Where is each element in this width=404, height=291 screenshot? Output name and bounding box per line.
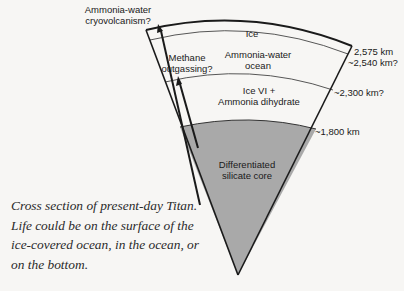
cryovolcanism-label-line1: Ammonia-water	[85, 4, 152, 15]
layer-label-ocean-line1: Ammonia-water	[225, 49, 292, 60]
cryovolcanism-label-line2: cryovolcanism?	[85, 15, 150, 26]
layer-label-core-line1: Differentiated	[219, 159, 275, 170]
layer-label-icevi-line2: Ammonia dihydrate	[218, 96, 300, 107]
radius-label-ocean: ~2,540 km?	[348, 57, 398, 68]
layer-label-core-line2: silicate core	[222, 170, 272, 181]
layer-label-icevi-line1: Ice VI +	[243, 85, 276, 96]
radius-label-surface: 2,575 km	[354, 46, 393, 57]
layer-label-ice: Ice	[246, 28, 259, 39]
methane-label-line2: outgassing?	[161, 63, 212, 74]
methane-label-line1: Methane	[169, 52, 206, 63]
radius-label-icevi: ~2,300 km?	[334, 87, 384, 98]
figure-caption: Cross section of present-day Titan. Life…	[11, 196, 211, 274]
radius-label-core: ~1,800 km	[315, 126, 360, 137]
layer-label-ocean-line2: ocean	[245, 60, 271, 71]
